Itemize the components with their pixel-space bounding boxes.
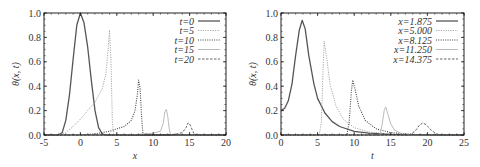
series-line-0 xyxy=(44,13,226,135)
figure: -5051015200.00.20.40.60.81.0xθ(x, t)t=0t… xyxy=(0,0,480,167)
x-tick-label: 15 xyxy=(386,137,396,148)
x-tick-label: 20 xyxy=(221,137,231,148)
y-tick-label: 0.0 xyxy=(266,130,279,141)
series-line-2 xyxy=(281,80,464,135)
series-line-0 xyxy=(281,20,464,135)
x-tick-label: 10 xyxy=(349,137,359,148)
legend-label: t=20 xyxy=(174,54,194,65)
y-tick-label: 1.0 xyxy=(266,8,279,19)
y-tick-label: 0.2 xyxy=(266,105,279,116)
y-axis-label: θ(x, t) xyxy=(247,61,259,85)
series-line-4 xyxy=(44,123,226,135)
y-tick-label: 0.8 xyxy=(266,32,279,43)
x-tick-label: 20 xyxy=(422,137,432,148)
plot-frame xyxy=(281,13,464,135)
x-tick-label: 10 xyxy=(148,137,158,148)
x-tick-label: 5 xyxy=(315,137,320,148)
series-line-2 xyxy=(44,80,226,135)
y-tick-label: 0.6 xyxy=(266,56,279,67)
y-tick-label: 0.6 xyxy=(29,56,42,67)
legend-label: x=14.375 xyxy=(392,54,432,65)
y-tick-label: 0.4 xyxy=(266,81,279,92)
x-tick-label: 5 xyxy=(114,137,119,148)
right-chart-panel: 05101520250.00.20.40.60.81.0tθ(x, t)x=1.… xyxy=(247,8,469,162)
y-tick-label: 0.2 xyxy=(29,105,42,116)
x-axis-label: t xyxy=(371,150,374,161)
x-axis-label: x xyxy=(132,150,138,161)
y-tick-label: 0.4 xyxy=(29,81,42,92)
y-tick-label: 0.8 xyxy=(29,32,42,43)
x-tick-label: 0 xyxy=(279,137,284,148)
y-tick-label: 1.0 xyxy=(29,8,42,19)
left-chart-panel: -5051015200.00.20.40.60.81.0xθ(x, t)t=0t… xyxy=(10,8,231,162)
series-line-3 xyxy=(44,109,226,135)
series-line-3 xyxy=(281,107,464,135)
y-tick-label: 0.0 xyxy=(29,130,42,141)
y-axis-label: θ(x, t) xyxy=(10,61,22,85)
x-tick-label: 0 xyxy=(78,137,83,148)
x-tick-label: 25 xyxy=(459,137,469,148)
x-tick-label: -5 xyxy=(40,137,48,148)
x-tick-label: 15 xyxy=(185,137,195,148)
